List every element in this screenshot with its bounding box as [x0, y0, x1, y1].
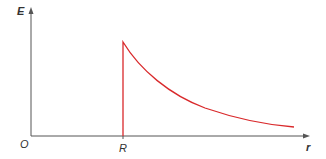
y-axis-arrow-icon [29, 7, 34, 14]
y-axis-label: E [17, 6, 24, 17]
r-marker-label: R [119, 143, 127, 154]
x-axis-label: r [306, 142, 310, 153]
x-axis-arrow-icon [303, 134, 310, 139]
field-curve [123, 42, 294, 136]
origin-label: O [20, 139, 29, 150]
field-diagram [0, 0, 326, 159]
